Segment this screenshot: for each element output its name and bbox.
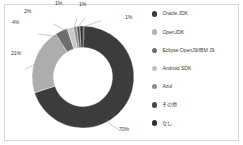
legend-marker-icon bbox=[152, 66, 157, 71]
slice-label-android-sdk: 2% bbox=[24, 8, 31, 14]
legend-marker-icon bbox=[152, 48, 157, 53]
legend-marker-icon bbox=[152, 84, 157, 89]
slice-label-sonota: 1% bbox=[55, 0, 62, 6]
legend-item[interactable]: なし bbox=[152, 118, 172, 128]
legend-item[interactable]: Oracle JDK bbox=[152, 9, 188, 19]
donut-plot-area: 1% 1% 1% 2% 4% 21% 70% bbox=[0, 0, 150, 145]
legend-marker-icon bbox=[152, 29, 157, 34]
legend-item[interactable]: Azul bbox=[152, 82, 172, 92]
slice-label-azul: 1% bbox=[125, 14, 132, 20]
legend-label: Android SDK bbox=[162, 66, 191, 71]
legend-item[interactable]: Eclipse OpenJ9/IBM J9 bbox=[152, 45, 214, 55]
legend-marker-icon bbox=[152, 102, 157, 107]
donut-slices bbox=[32, 26, 134, 128]
legend-item[interactable]: OpenJDK bbox=[152, 27, 184, 37]
slice-label-openj9: 4% bbox=[12, 19, 19, 25]
chart-figure: 1% 1% 1% 2% 4% 21% 70% Oracle JDKOpenJDK… bbox=[0, 0, 243, 145]
legend-label: Eclipse OpenJ9/IBM J9 bbox=[162, 48, 214, 53]
legend-item[interactable]: その他 bbox=[152, 100, 177, 110]
legend-marker-icon bbox=[152, 120, 157, 125]
slice-label-openjdk: 21% bbox=[11, 50, 21, 56]
slice-label-oracle-jdk: 70% bbox=[119, 126, 129, 132]
legend-label: Azul bbox=[162, 84, 172, 89]
legend-label: その他 bbox=[162, 102, 177, 107]
legend-label: Oracle JDK bbox=[162, 11, 188, 16]
legend-label: OpenJDK bbox=[162, 30, 184, 35]
chart-legend: Oracle JDKOpenJDKEclipse OpenJ9/IBM J9An… bbox=[152, 9, 240, 139]
legend-marker-icon bbox=[152, 11, 157, 16]
legend-item[interactable]: Android SDK bbox=[152, 64, 191, 74]
slice-label-nashi: 1% bbox=[79, 1, 86, 7]
legend-label: なし bbox=[162, 121, 172, 126]
donut-chart bbox=[22, 14, 144, 140]
